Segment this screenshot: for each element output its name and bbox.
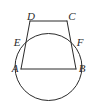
label-point-e: E — [13, 36, 21, 48]
segment-cb — [67, 21, 76, 69]
label-point-f: F — [76, 36, 84, 48]
geometry-diagram: A B C D E F — [0, 0, 96, 108]
label-point-d: D — [26, 10, 35, 22]
label-point-c: C — [68, 10, 76, 22]
label-point-b: B — [79, 62, 86, 74]
label-point-a: A — [11, 62, 19, 74]
geometry-figure-container: A B C D E F — [0, 0, 96, 108]
circle-shape — [15, 34, 82, 101]
segment-da — [21, 21, 30, 69]
